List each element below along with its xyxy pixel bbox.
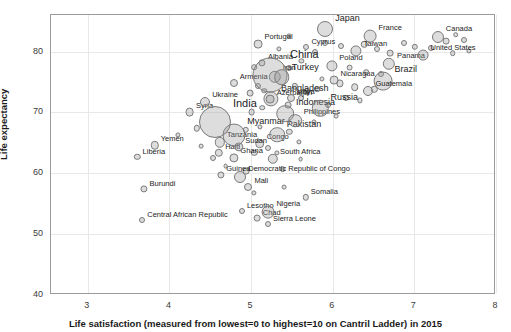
gridline-vertical xyxy=(333,15,334,293)
x-tick-label: 7 xyxy=(398,300,428,310)
y-tick-label: 50 xyxy=(13,228,43,238)
gridline-vertical xyxy=(496,15,497,293)
gridline-horizontal xyxy=(51,173,494,174)
data-point-label: Nicaragua xyxy=(341,68,375,77)
data-point[interactable] xyxy=(266,95,275,104)
data-point[interactable] xyxy=(363,86,373,96)
data-point[interactable] xyxy=(364,30,377,43)
data-point[interactable] xyxy=(210,155,216,161)
data-point[interactable] xyxy=(453,32,459,38)
data-point[interactable] xyxy=(265,145,271,151)
data-point[interactable] xyxy=(374,46,380,52)
data-point[interactable] xyxy=(230,79,238,87)
data-point[interactable] xyxy=(199,144,204,149)
data-point[interactable] xyxy=(288,114,302,128)
data-point[interactable] xyxy=(248,109,255,116)
data-point-label: Cyprus xyxy=(311,37,335,46)
data-point[interactable] xyxy=(274,70,290,86)
y-tick-label: 40 xyxy=(13,289,43,299)
data-point[interactable] xyxy=(185,108,194,117)
data-point[interactable] xyxy=(199,106,231,138)
data-point[interactable] xyxy=(265,221,271,227)
data-point[interactable] xyxy=(351,83,359,91)
data-point-label: Sudan xyxy=(245,135,267,144)
x-tick-label: 3 xyxy=(72,300,102,310)
data-point-label: Ukraine xyxy=(212,90,238,99)
x-tick-label: 5 xyxy=(235,300,265,310)
x-tick-label: 6 xyxy=(317,300,347,310)
data-point[interactable] xyxy=(418,50,429,61)
data-point[interactable] xyxy=(387,50,394,57)
x-tick-label: 4 xyxy=(153,300,183,310)
data-point-label: Japan xyxy=(335,13,360,23)
data-point[interactable] xyxy=(287,94,295,102)
data-point[interactable] xyxy=(247,90,254,97)
x-tick-label: 8 xyxy=(480,300,510,310)
data-point-label: United States xyxy=(431,42,476,51)
data-point[interactable] xyxy=(244,183,252,191)
data-point-label: Libya xyxy=(297,87,315,96)
data-point[interactable] xyxy=(338,43,344,49)
data-point-label: Yemen xyxy=(161,134,184,143)
data-point-label: Democratic Republic of Congo xyxy=(248,163,350,172)
y-axis-title: Life expectancy xyxy=(0,89,9,160)
data-point[interactable] xyxy=(432,31,444,43)
y-tick-label: 80 xyxy=(13,46,43,56)
data-point[interactable] xyxy=(298,157,303,162)
data-point-label: Portugal xyxy=(265,32,293,41)
data-point[interactable] xyxy=(330,76,339,85)
data-point-label: Sierra Leone xyxy=(273,214,316,223)
data-point[interactable] xyxy=(254,215,261,222)
y-tick-label: 70 xyxy=(13,106,43,116)
gridline-vertical xyxy=(169,15,170,293)
data-point-label: Nigeria xyxy=(276,199,300,208)
data-point[interactable] xyxy=(139,217,145,223)
data-point[interactable] xyxy=(401,40,407,46)
data-point[interactable] xyxy=(239,208,245,214)
data-point[interactable] xyxy=(234,171,246,183)
data-point-label: Mali xyxy=(254,176,268,185)
data-point-label: Burundi xyxy=(149,178,175,187)
data-point-label: Brazil xyxy=(395,64,418,74)
data-point[interactable] xyxy=(317,21,333,37)
data-point[interactable] xyxy=(269,127,285,143)
gridline-horizontal xyxy=(51,234,494,235)
data-point[interactable] xyxy=(259,105,265,111)
y-tick-label: 60 xyxy=(13,167,43,177)
x-axis-title: Life satisfaction (measured from lowest=… xyxy=(0,318,511,329)
scatter-chart: 3456784050607080 Central African Republi… xyxy=(0,0,511,332)
data-point-label: Somalia xyxy=(311,187,338,196)
data-point-label: Central African Republic xyxy=(147,209,227,218)
data-point-label: Russia xyxy=(330,92,358,102)
data-point[interactable] xyxy=(254,39,263,48)
gridline-horizontal xyxy=(51,112,494,113)
data-point-label: Guatemala xyxy=(375,79,412,88)
data-point-label: Canada xyxy=(446,24,472,33)
data-point[interactable] xyxy=(282,184,287,189)
data-point[interactable] xyxy=(303,44,309,50)
data-point-label: France xyxy=(378,22,401,31)
data-point-label: Turkey xyxy=(292,62,319,72)
data-point-label: South Africa xyxy=(280,146,320,155)
data-point[interactable] xyxy=(200,97,210,107)
gridline-vertical xyxy=(88,15,89,293)
